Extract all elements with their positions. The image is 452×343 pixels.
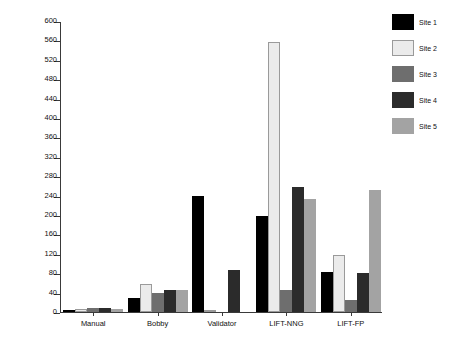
bar-bobby-site-5	[176, 290, 188, 312]
x-axis-line	[60, 312, 382, 313]
bar-lift-fp-site-1	[321, 272, 333, 312]
bar-lift-nng-site-4	[292, 187, 304, 312]
x-tick-mark	[351, 312, 352, 316]
bar-bobby-site-3	[152, 293, 164, 312]
y-tick-label: 520	[27, 55, 57, 64]
bar-group-lift-nng: LIFT-NNG	[256, 22, 316, 312]
y-tick-label: 320	[27, 152, 57, 161]
legend-label: Site 1	[419, 19, 437, 26]
bar-lift-nng-site-2	[268, 42, 280, 312]
bars	[321, 22, 381, 312]
x-axis-label-lift-nng: LIFT-NNG	[256, 319, 316, 328]
bar-bobby-site-2	[140, 284, 152, 312]
y-tick-label: 360	[27, 132, 57, 141]
y-tick-label: 240	[27, 191, 57, 200]
bar-group-bobby: Bobby	[128, 22, 188, 312]
x-tick-mark	[222, 312, 223, 316]
bar-bobby-site-1	[128, 298, 140, 312]
legend-item-site-4: Site 4	[392, 88, 450, 112]
bars	[63, 22, 123, 312]
bar-group-validator: Validator	[192, 22, 252, 312]
plot-area: 0408012016020024028032036040044048052056…	[60, 22, 382, 313]
bar-validator-site-4	[228, 270, 240, 312]
legend-item-site-1: Site 1	[392, 10, 450, 34]
x-axis-label-manual: Manual	[63, 319, 123, 328]
bar-lift-fp-site-5	[369, 190, 381, 312]
x-tick-mark	[286, 312, 287, 316]
bar-lift-nng-site-5	[304, 199, 316, 312]
bar-manual-site-5	[111, 309, 123, 312]
x-axis-label-validator: Validator	[192, 319, 252, 328]
legend-item-site-3: Site 3	[392, 62, 450, 86]
y-tick-label: 280	[27, 171, 57, 180]
bar-lift-fp-site-3	[345, 300, 357, 312]
x-axis-label-lift-fp: LIFT-FP	[321, 319, 381, 328]
legend-swatch-site-3	[392, 66, 414, 82]
x-tick-mark	[93, 312, 94, 316]
legend-label: Site 4	[419, 97, 437, 104]
bar-manual-site-1	[63, 310, 75, 312]
bars	[192, 22, 252, 312]
legend-swatch-site-1	[392, 14, 414, 30]
x-tick-mark	[158, 312, 159, 316]
x-axis-label-bobby: Bobby	[128, 319, 188, 328]
legend-swatch-site-4	[392, 92, 414, 108]
bars	[128, 22, 188, 312]
bar-validator-site-1	[192, 196, 204, 312]
bar-lift-fp-site-2	[333, 255, 345, 312]
bar-manual-site-4	[99, 308, 111, 312]
y-tick-label: 600	[27, 16, 57, 25]
legend-swatch-site-2	[392, 40, 414, 56]
legend-label: Site 5	[419, 123, 437, 130]
y-tick-label: 440	[27, 94, 57, 103]
bar-group-manual: Manual	[63, 22, 123, 312]
y-tick-label: 200	[27, 210, 57, 219]
legend-item-site-5: Site 5	[392, 114, 450, 138]
legend-item-site-2: Site 2	[392, 36, 450, 60]
bar-lift-nng-site-3	[280, 290, 292, 312]
y-tick-label: 560	[27, 35, 57, 44]
y-tick-label: 400	[27, 113, 57, 122]
bar-validator-site-2	[204, 310, 216, 312]
bar-chart: Total number of problems 040801201602002…	[0, 0, 452, 343]
y-tick-label: 160	[27, 229, 57, 238]
bar-manual-site-2	[75, 309, 87, 312]
bars	[256, 22, 316, 312]
y-tick-label: 0	[27, 307, 57, 316]
y-tick-label: 480	[27, 74, 57, 83]
legend-label: Site 3	[419, 71, 437, 78]
y-tick-label: 40	[27, 288, 57, 297]
bar-bobby-site-4	[164, 290, 176, 312]
y-tick-label: 120	[27, 249, 57, 258]
legend-label: Site 2	[419, 45, 437, 52]
bar-lift-nng-site-1	[256, 216, 268, 313]
legend-swatch-site-5	[392, 118, 414, 134]
y-tick-label: 80	[27, 268, 57, 277]
chart-legend: Site 1Site 2Site 3Site 4Site 5	[392, 10, 450, 140]
bar-lift-fp-site-4	[357, 273, 369, 312]
bar-groups: ManualBobbyValidatorLIFT-NNGLIFT-FP	[61, 22, 382, 312]
bar-group-lift-fp: LIFT-FP	[321, 22, 381, 312]
